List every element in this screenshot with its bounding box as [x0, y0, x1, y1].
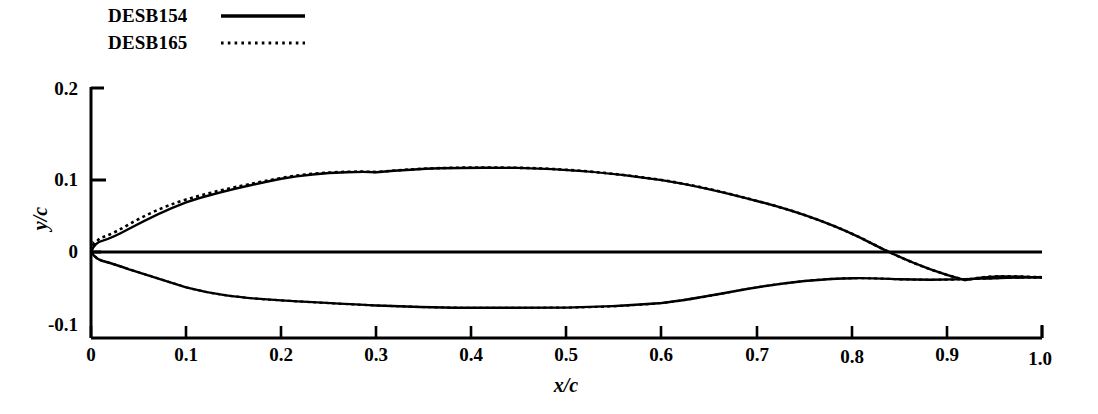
- x-tick-label-0: 0: [61, 344, 121, 366]
- x-tick-label-2: 0.2: [251, 344, 311, 366]
- x-tick-label-4: 0.4: [441, 344, 501, 366]
- x-tick-label-1: 0.1: [156, 344, 216, 366]
- curve-desb165-upper: [91, 168, 1042, 280]
- curve-desb154-lower: [91, 252, 1042, 308]
- x-tick-label-3: 0.3: [346, 344, 406, 366]
- x-tick-label-8: 0.8: [822, 346, 882, 368]
- x-tick-label-7: 0.7: [727, 344, 787, 366]
- y-tick-label-0: 0.2: [14, 78, 78, 100]
- x-axis-ticks: [91, 326, 1042, 338]
- y-axis-title: y/c: [29, 189, 52, 249]
- airfoil-profile-figure: DESB154 DESB165: [0, 0, 1098, 414]
- x-tick-label-10: 1.0: [1010, 348, 1070, 370]
- x-axis-title: x/c: [536, 374, 596, 397]
- x-tick-label-9: 0.9: [917, 344, 977, 366]
- x-tick-label-6: 0.6: [631, 344, 691, 366]
- curve-desb154-upper: [91, 168, 1042, 280]
- y-tick-label-3: -0.1: [4, 314, 78, 336]
- x-tick-label-5: 0.5: [536, 344, 596, 366]
